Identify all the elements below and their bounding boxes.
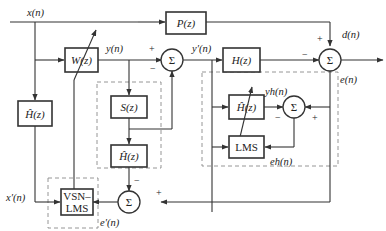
h-label: H(z) (231, 54, 252, 67)
svg-text:−: − (150, 63, 156, 74)
svg-text:+: + (156, 187, 162, 198)
label-d: d(n) (342, 29, 360, 41)
svg-text:−: − (275, 112, 281, 123)
svg-text:+: + (317, 33, 323, 44)
label-eprime: e′(n) (100, 217, 120, 229)
label-x: x(n) (26, 7, 44, 19)
svg-text:+: + (149, 43, 155, 54)
svg-text:Σ: Σ (327, 54, 333, 66)
label-yprime: y′(n) (191, 43, 212, 55)
lms-label: LMS (235, 141, 258, 153)
svg-text:−: − (302, 49, 308, 60)
label-yh: yh(n) (264, 86, 288, 98)
hhat-mid-label: Ĥ(z) (118, 150, 139, 163)
label-xprime: x′(n) (5, 192, 26, 204)
label-y: y(n) (105, 43, 123, 55)
label-eh: eh(n) (270, 156, 293, 168)
svg-text:Σ: Σ (126, 196, 132, 208)
w-label: W(z) (71, 54, 92, 67)
svg-text:−: − (134, 175, 140, 186)
vsnlms-label-2: LMS (66, 202, 89, 214)
s-label: S(z) (120, 101, 137, 114)
svg-text:Σ: Σ (291, 101, 297, 113)
p-label: P(z) (176, 17, 196, 30)
svg-text:Σ: Σ (169, 54, 175, 66)
svg-text:+: + (312, 112, 318, 123)
adaptive-filter-block-diagram: P(z) W(z) Σ + − H(z) Σ + − S(z) Ĥ(z) − Σ… (0, 0, 386, 231)
hhat-left-label: Ĥ(z) (24, 108, 45, 121)
vsnlms-label-1: VSN– (63, 190, 91, 202)
label-e: e(n) (340, 74, 357, 86)
